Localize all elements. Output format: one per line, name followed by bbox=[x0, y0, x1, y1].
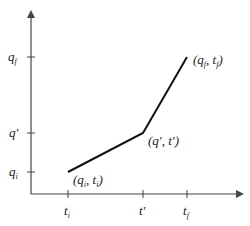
label-qi: qi bbox=[9, 164, 18, 181]
label-tf: tf bbox=[183, 203, 191, 220]
point-label-intermediate: (q′, t′) bbox=[148, 133, 179, 148]
label-qf: qf bbox=[8, 49, 19, 66]
point-label-final: (qf, tf) bbox=[193, 52, 223, 69]
label-ti: ti bbox=[64, 203, 70, 220]
trajectory-path bbox=[68, 57, 187, 172]
label-qprime: q′ bbox=[9, 125, 19, 140]
diagram-canvas: qf q′ qi ti t′ tf (qi, ti) (q′, t′) (qf,… bbox=[0, 0, 250, 226]
label-tprime: t′ bbox=[139, 203, 146, 218]
point-label-initial: (qi, ti) bbox=[73, 172, 103, 189]
